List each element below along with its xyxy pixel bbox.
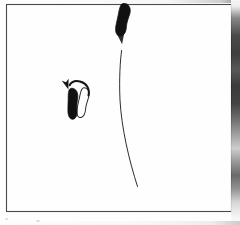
- footprint-top-filled: [115, 3, 131, 37]
- figure-drawing: [0, 0, 240, 225]
- arrow-long-curved-shaft: [120, 51, 138, 187]
- footprint-middle-outline: [76, 87, 89, 118]
- figure-canvas: [0, 0, 240, 225]
- arrow-long-curved: [117, 33, 138, 187]
